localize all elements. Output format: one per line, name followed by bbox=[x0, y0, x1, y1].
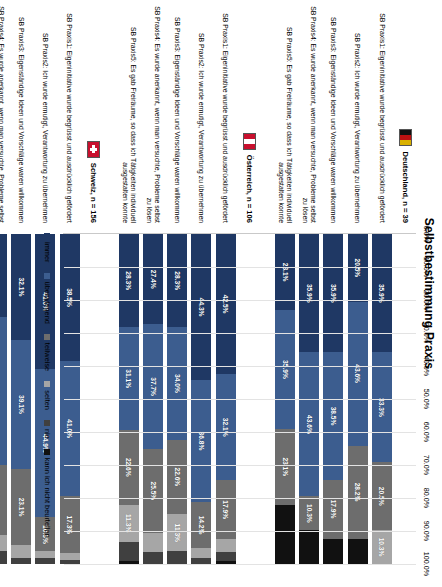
category-label: SB Praxis5: Es gab Freiräume, so dass ic… bbox=[275, 0, 295, 228]
bar-segment: 42.5% bbox=[216, 234, 236, 374]
bar-segment bbox=[348, 539, 368, 564]
bar-segment bbox=[0, 551, 7, 564]
bar-segment: 25.0% bbox=[0, 234, 7, 317]
category-label: SB Praxis2: Ich wurde ermutigt, Verantwo… bbox=[192, 0, 212, 228]
category-label: SB Praxis1: Eigeninitiative wurde begrüs… bbox=[60, 0, 80, 228]
bar-value-label: 27.4% bbox=[150, 270, 157, 289]
bar-segment: 38.5% bbox=[323, 352, 343, 479]
bar-segment: 28.2% bbox=[348, 446, 368, 539]
bar-segment: 23.1% bbox=[11, 469, 31, 545]
bar-value-label: 10.3% bbox=[378, 538, 385, 557]
x-tick-label: 100.0% bbox=[422, 552, 431, 576]
legend-item[interactable]: immer bbox=[43, 233, 52, 263]
category-label: SB Praxis2: Ich wurde ermutigt, Verantwo… bbox=[348, 0, 368, 228]
bar-segment: 39.1% bbox=[11, 340, 31, 469]
bar-value-label: 38.5% bbox=[66, 288, 73, 307]
category-label: SB Praxis4: Es wurde anerkannt, wenn man… bbox=[0, 0, 7, 228]
bar-segment bbox=[0, 535, 7, 552]
bar-segment: 21.2% bbox=[0, 465, 7, 535]
x-tick-label: 70.0% bbox=[422, 455, 431, 475]
bar-segment: 31.1% bbox=[119, 327, 139, 430]
bar-value-label: 28.3% bbox=[125, 271, 132, 290]
bar-value-label: 17.9% bbox=[330, 500, 337, 519]
x-tick-label: 40.0% bbox=[422, 356, 431, 376]
bar-segment bbox=[11, 558, 31, 564]
bar-value-label: 39.1% bbox=[18, 395, 25, 414]
legend-swatch bbox=[45, 334, 51, 340]
bar-segment bbox=[216, 539, 236, 552]
bar-segment: 10.3% bbox=[372, 530, 392, 564]
bar-value-label: 33.3% bbox=[378, 398, 385, 417]
legend-swatch bbox=[45, 233, 51, 239]
legend-item[interactable]: überwiegend bbox=[43, 273, 52, 324]
bar-value-label: 21.2% bbox=[0, 490, 1, 509]
bar-segment: 11.3% bbox=[119, 505, 139, 542]
group-label: Deutschland, n = 39 bbox=[402, 151, 411, 223]
x-tick-label: 0.0% bbox=[422, 226, 431, 242]
bar-value-label: 11.3% bbox=[125, 514, 132, 532]
legend-label: überwiegend bbox=[43, 282, 52, 324]
x-tick-label: 60.0% bbox=[422, 422, 431, 442]
bar-segment: 28.3% bbox=[119, 234, 139, 327]
bar-segment: 44.9% bbox=[0, 317, 7, 465]
x-tick-label: 10.0% bbox=[422, 257, 431, 277]
legend-item[interactable]: teilweise bbox=[43, 334, 52, 371]
bar-segment bbox=[216, 552, 236, 561]
x-tick-label: 30.0% bbox=[422, 323, 431, 343]
x-tick-label: 50.0% bbox=[422, 389, 431, 409]
group-header-schweiz: Schweiz, n = 156 bbox=[84, 0, 104, 228]
bar-segment bbox=[192, 548, 212, 557]
legend-item[interactable]: selten bbox=[43, 381, 52, 410]
gridline bbox=[64, 399, 416, 400]
gridline bbox=[64, 564, 416, 565]
bar-segment: 43.6% bbox=[299, 352, 319, 496]
bar-segment bbox=[299, 530, 319, 564]
gridline bbox=[64, 366, 416, 367]
bar-segment bbox=[11, 545, 31, 558]
bar-segment: 11.3% bbox=[167, 514, 187, 551]
bar-value-label: 10.3% bbox=[306, 504, 313, 523]
bar-segment: 22.6% bbox=[119, 430, 139, 505]
plot-area: 35.9%33.3%20.5%10.3%20.5%43.6%28.2%35.9%… bbox=[63, 233, 416, 564]
bar-value-label: 36.8% bbox=[198, 432, 205, 451]
category-label: SB Praxis1: Eigeninitiative wurde begrüs… bbox=[216, 0, 236, 228]
bar-value-label: 23.1% bbox=[18, 498, 25, 517]
group-spacer bbox=[260, 0, 271, 228]
bar-segment: 28.3% bbox=[167, 234, 187, 327]
x-tick-label: 90.0% bbox=[422, 521, 431, 541]
stacked-bar[interactable]: 32.1%39.1%23.1% bbox=[11, 234, 31, 564]
stacked-bar[interactable]: 25.0%44.9%21.2% bbox=[0, 234, 7, 564]
bar-segment bbox=[167, 551, 187, 564]
legend-label: immer bbox=[43, 242, 52, 263]
legend-item[interactable]: kann ich nicht beurteilen bbox=[43, 449, 52, 538]
category-label: SB Praxis2: Ich wurde ermutigt, Verantwo… bbox=[35, 0, 55, 228]
bar-segment: 23.1% bbox=[275, 429, 295, 505]
bar-value-label: 23.1% bbox=[282, 457, 289, 476]
x-tick-label: 80.0% bbox=[422, 488, 431, 508]
legend-swatch bbox=[45, 381, 51, 387]
gridline bbox=[64, 267, 416, 268]
group-header-österreich: Österreich, n = 106 bbox=[240, 0, 260, 228]
bar-segment: 35.9% bbox=[372, 234, 392, 352]
bar-value-label: 34.0% bbox=[174, 374, 181, 393]
legend-swatch bbox=[45, 273, 51, 279]
legend-swatch bbox=[45, 449, 51, 455]
legend-label: selten bbox=[43, 390, 52, 410]
bar-value-label: 20.5% bbox=[378, 487, 385, 506]
group-header-deutschland: Deutschland, n = 39 bbox=[396, 0, 416, 228]
bar-segment: 27.4% bbox=[143, 234, 163, 324]
gridline bbox=[64, 333, 416, 334]
category-label: SB Praxis4: Es wurde anerkannt, wenn man… bbox=[299, 0, 319, 228]
legend-label: kann ich nicht beurteilen bbox=[43, 458, 52, 538]
bar-value-label: 23.1% bbox=[282, 263, 289, 282]
bar-value-label: 31.1% bbox=[125, 369, 132, 388]
legend-item[interactable]: nie bbox=[43, 420, 52, 439]
group-label: Österreich, n = 106 bbox=[245, 155, 254, 223]
bar-value-label: 35.9% bbox=[282, 360, 289, 379]
gridline bbox=[64, 531, 416, 532]
gridline bbox=[64, 432, 416, 433]
bar-segment: 43.6% bbox=[348, 302, 368, 446]
table-row: 32.1%39.1%23.1% bbox=[11, 234, 31, 564]
bar-segment: 25.5% bbox=[143, 449, 163, 533]
category-label: SB Praxis3: Eigenständige Ideen und Vors… bbox=[11, 0, 31, 228]
